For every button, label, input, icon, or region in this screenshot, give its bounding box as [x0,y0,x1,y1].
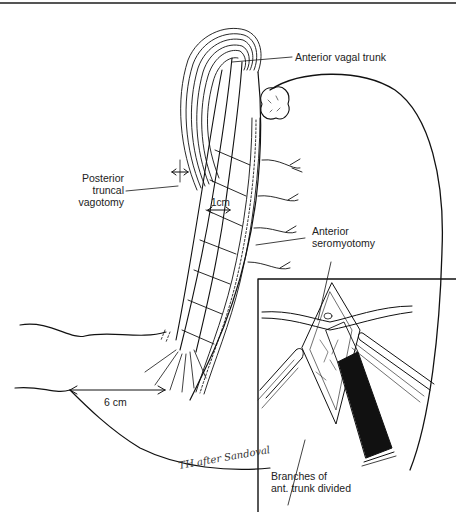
antrum-icon [15,324,270,469]
leader-lines-icon [126,57,331,505]
label-one-cm: 1cm [211,197,230,209]
figure-page: Anterior vagal trunk Posterior truncal v… [0,0,456,512]
label-line: Branches of [271,470,351,482]
label-anterior-vagal-trunk: Anterior vagal trunk [295,51,386,63]
inset-left-retractor-icon [258,348,303,408]
label-posterior-truncal-vagotomy: Posterior truncal vagotomy [62,172,124,208]
diaphragm-arc-icon [181,28,261,190]
nerve-branches-icon [182,150,302,344]
six-cm-arrow-icon [70,386,165,394]
fat-pad-icon [261,87,289,119]
label-branches-divided: Branches of ant. trunk divided [271,470,351,494]
label-line: vagotomy [62,196,124,208]
label-line: truncal [62,184,124,196]
label-line: ant. trunk divided [271,482,351,494]
label-line: Posterior [62,172,124,184]
label-six-cm: 6 cm [104,396,127,408]
vagotomy-arrow-icon [172,160,188,182]
label-line: Anterior [312,225,375,237]
stomach-illustration [0,0,456,512]
label-line: seromyotomy [312,237,375,249]
inset-nerve-icon [262,306,412,330]
label-anterior-seromyotomy: Anterior seromyotomy [312,225,375,249]
